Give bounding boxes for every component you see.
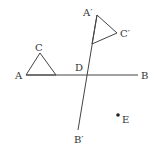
triangle-original xyxy=(26,53,56,75)
label-E: E xyxy=(122,114,129,125)
geometry-diagram: A B C D E A′ B′ C′ xyxy=(0,0,154,153)
label-A: A xyxy=(14,70,23,81)
label-C: C xyxy=(35,42,43,53)
label-A-prime: A′ xyxy=(82,7,93,18)
point-E-dot xyxy=(116,113,120,117)
label-D: D xyxy=(75,62,83,73)
label-B: B xyxy=(141,70,148,81)
triangle-image xyxy=(92,15,117,44)
label-C-prime: C′ xyxy=(120,28,131,39)
label-B-prime: B′ xyxy=(74,134,84,145)
